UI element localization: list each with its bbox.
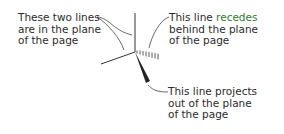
in-plane-bond-left bbox=[101, 52, 135, 64]
hashed-bond-icon bbox=[137, 51, 158, 60]
leader-recede bbox=[149, 17, 169, 48]
leader-in-plane-1 bbox=[97, 17, 132, 35]
leader-project bbox=[148, 85, 168, 92]
leader-in-plane-2 bbox=[97, 17, 124, 50]
label-recedes: This line recedes behind the plane of th… bbox=[169, 12, 258, 47]
label-recedes-highlight: recedes bbox=[216, 11, 257, 23]
label-projects: This line projects out of the plane of t… bbox=[168, 86, 257, 121]
label-recedes-rest: behind the plane of the page bbox=[169, 23, 258, 47]
label-in-plane: These two lines are in the plane of the … bbox=[18, 12, 101, 47]
label-recedes-prefix: This line bbox=[169, 11, 216, 23]
wedge-bond-icon bbox=[135, 52, 150, 83]
